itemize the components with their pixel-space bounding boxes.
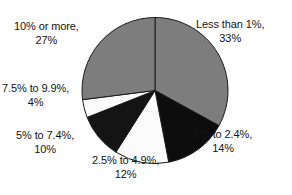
pie-label-1-to-2-4-category: 1% to 2.4%, — [194, 128, 252, 142]
pie-chart-figure: 10% or more, 27% Less than 1%, 33% 7.5% … — [0, 0, 292, 195]
pie-label-1-to-2-4: 1% to 2.4%, 14% — [194, 128, 252, 155]
pie-label-7-5-to-9-9-value: 4% — [2, 96, 69, 110]
pie-label-10-or-more-category: 10% or more, — [14, 20, 79, 34]
pie-slice-10-or-more — [82, 18, 155, 100]
pie-label-5-to-7-4: 5% to 7.4%, 10% — [16, 129, 74, 156]
pie-label-1-to-2-4-value: 14% — [194, 142, 252, 156]
pie-label-2-5-to-4-9-value: 12% — [92, 168, 159, 182]
pie-label-5-to-7-4-value: 10% — [16, 143, 74, 157]
pie-label-10-or-more-value: 27% — [14, 34, 79, 48]
pie-label-7-5-to-9-9: 7.5% to 9.9%, 4% — [2, 82, 69, 109]
pie-label-less-than-1-value: 33% — [196, 32, 264, 46]
pie-label-5-to-7-4-category: 5% to 7.4%, — [16, 129, 74, 143]
pie-label-10-or-more: 10% or more, 27% — [14, 20, 79, 47]
pie-label-2-5-to-4-9-category: 2.5% to 4.9%, — [92, 154, 159, 168]
pie-label-2-5-to-4-9: 2.5% to 4.9%, 12% — [92, 154, 159, 181]
pie-label-7-5-to-9-9-category: 7.5% to 9.9%, — [2, 82, 69, 96]
pie-label-less-than-1: Less than 1%, 33% — [196, 18, 264, 45]
pie-label-less-than-1-category: Less than 1%, — [196, 18, 264, 32]
